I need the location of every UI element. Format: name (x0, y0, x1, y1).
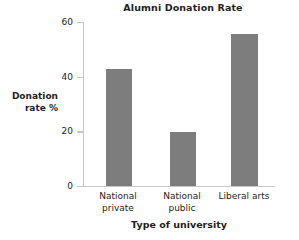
y-tick-label-0: 0 (37, 182, 73, 191)
y-axis-title: Donation rate % (0, 90, 58, 114)
y-tick-label-20: 20 (37, 127, 73, 136)
chart-figure: Alumni Donation Rate Donation rate % 60 … (0, 0, 299, 240)
y-tick-label-40: 40 (37, 73, 73, 82)
bar-national-private[interactable] (106, 69, 132, 186)
y-tick-mark-0 (77, 186, 83, 187)
plot-area (83, 23, 275, 186)
cat-1-line-2: public (137, 203, 227, 215)
bar-liberal-arts[interactable] (231, 34, 258, 186)
y-tick-label-60: 60 (37, 18, 73, 27)
y-axis-title-line-1: Donation (0, 90, 58, 102)
x-category-label-liberal-arts: Liberal arts (199, 191, 289, 203)
cat-2-line-1: Liberal arts (199, 191, 289, 203)
y-axis-title-line-2: rate % (0, 102, 58, 114)
chart-title: Alumni Donation Rate (83, 2, 283, 13)
bar-national-public[interactable] (170, 132, 196, 186)
x-axis-line (83, 186, 275, 187)
x-axis-title: Type of university (83, 219, 275, 230)
